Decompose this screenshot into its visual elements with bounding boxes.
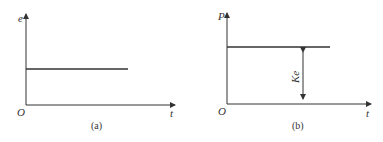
- panel-a: e t O (a): [17, 12, 175, 132]
- caption-a: (a): [91, 120, 102, 132]
- diagram-canvas: e t O (a) P t O Ke (b): [0, 0, 383, 142]
- x-axis-label-a: t: [170, 107, 174, 119]
- panel-b: P t O Ke (b): [217, 10, 371, 132]
- x-axis-label-b: t: [366, 107, 370, 119]
- caption-b: (b): [292, 120, 304, 132]
- origin-label-b: O: [218, 105, 226, 117]
- dimension-label-ke: Ke: [289, 71, 301, 84]
- origin-label-a: O: [17, 106, 25, 118]
- y-axis-label-b: P: [217, 10, 225, 22]
- y-axis-label-a: e: [18, 12, 23, 24]
